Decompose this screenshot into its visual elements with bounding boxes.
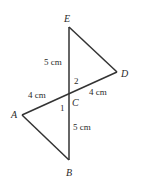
measurement-CB: 5 cm	[73, 122, 91, 132]
angle-label-1: 1	[60, 103, 65, 113]
point-label-A: A	[10, 109, 18, 120]
segment-ED	[69, 27, 117, 72]
measurement-AC: 4 cm	[28, 90, 46, 100]
point-label-C: C	[72, 97, 79, 108]
measurement-EC: 5 cm	[44, 57, 62, 67]
segment-AB	[22, 115, 69, 160]
point-label-E: E	[63, 13, 70, 24]
geometry-diagram: E D C A B 5 cm 4 cm 4 cm 5 cm 1 2	[0, 0, 142, 183]
point-label-B: B	[66, 167, 72, 178]
angle-label-2: 2	[74, 76, 79, 86]
measurement-CD: 4 cm	[89, 87, 107, 97]
point-label-D: D	[120, 68, 129, 79]
